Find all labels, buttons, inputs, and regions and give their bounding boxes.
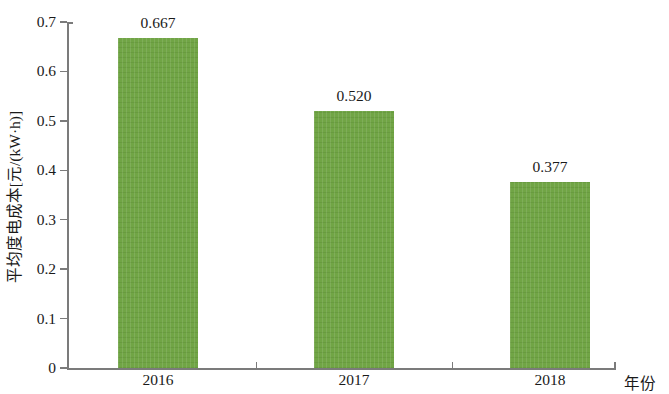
y-axis-title: 平均度电成本[元/(kW·h)] (0, 0, 26, 394)
bar (314, 111, 394, 368)
y-axis-tick (60, 120, 67, 121)
y-axis-tick (60, 318, 67, 319)
x-axis-line (67, 368, 616, 370)
y-axis-tick (60, 219, 67, 220)
y-axis-tick-label: 0.2 (0, 260, 56, 278)
bar-value-label: 0.520 (337, 87, 372, 105)
y-axis-tick-label: 0.5 (0, 112, 56, 130)
y-axis-tick (60, 268, 67, 269)
x-axis-title: 年份 (624, 371, 656, 393)
y-axis-tick-label: 0.3 (0, 211, 56, 229)
y-axis-tick (60, 71, 67, 72)
x-axis-tick (452, 362, 453, 369)
y-axis-tick-label: 0 (0, 359, 56, 377)
x-axis-category-label: 2017 (339, 371, 370, 389)
bar-chart: 平均度电成本[元/(kW·h)] 00.10.20.30.40.50.60.7 … (0, 0, 669, 394)
y-axis-tick-label: 0.4 (0, 161, 56, 179)
bar (510, 182, 590, 368)
x-axis-category-label: 2018 (535, 371, 566, 389)
y-axis-line (67, 22, 69, 369)
y-axis-tick-label: 0.7 (0, 13, 56, 31)
y-axis-tick (60, 21, 67, 22)
bar-value-label: 0.667 (141, 14, 176, 32)
bar (118, 38, 198, 368)
x-axis-tick (256, 362, 257, 369)
y-axis-top-cap (67, 22, 73, 24)
bar-value-label: 0.377 (533, 158, 568, 176)
y-axis-tick (60, 367, 67, 368)
y-axis-tick-label: 0.1 (0, 310, 56, 328)
y-axis-tick-label: 0.6 (0, 62, 56, 80)
x-axis-right-cap (614, 362, 616, 369)
y-axis-tick (60, 170, 67, 171)
x-axis-category-label: 2016 (143, 371, 174, 389)
